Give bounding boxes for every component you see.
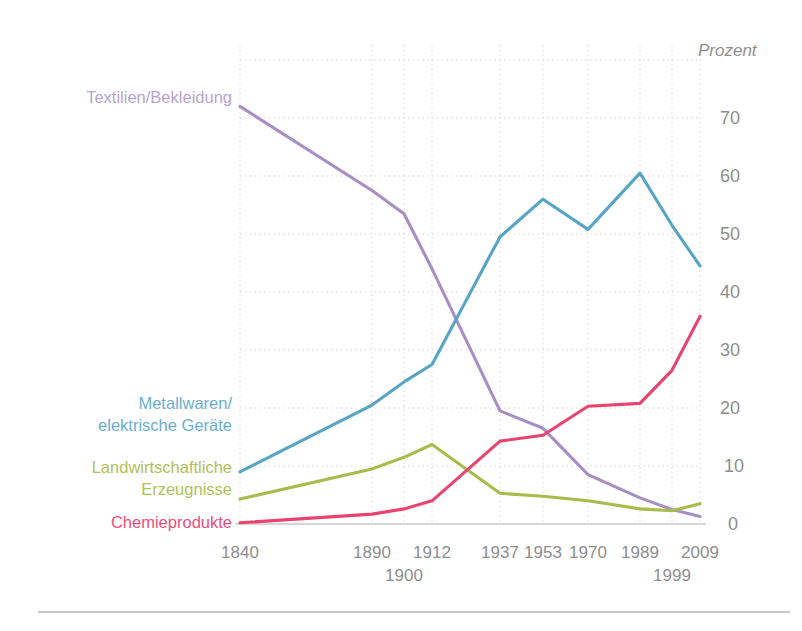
- y-tick-30: 30: [720, 340, 740, 360]
- y-axis-unit-label: Prozent: [698, 41, 758, 60]
- x-tick-2009: 2009: [681, 543, 719, 562]
- x-tick-1999: 1999: [653, 566, 691, 585]
- x-tick-1953: 1953: [524, 543, 562, 562]
- legend-label-metallwaren-line2: elektrische Geräte: [98, 416, 232, 434]
- y-tick-10: 10: [724, 456, 744, 476]
- y-tick-60: 60: [720, 166, 740, 186]
- legend-label-metallwaren-line1: Metallwaren/: [138, 394, 232, 412]
- y-tick-50: 50: [720, 224, 740, 244]
- y-tick-20: 20: [720, 398, 740, 418]
- x-tick-1937: 1937: [481, 543, 519, 562]
- x-tick-1970: 1970: [569, 543, 607, 562]
- legend-label-landwirtschaftliche-line2: Erzeugnisse: [141, 480, 232, 498]
- y-tick-40: 40: [720, 282, 740, 302]
- x-tick-1989: 1989: [621, 543, 659, 562]
- line-chart-figure: Prozent 70 60 50 40 30 20 10 0 1840 1890…: [0, 0, 802, 631]
- x-tick-1890: 1890: [353, 543, 391, 562]
- x-tick-1912: 1912: [413, 543, 451, 562]
- chart-container: Prozent 70 60 50 40 30 20 10 0 1840 1890…: [0, 0, 802, 631]
- x-tick-1840: 1840: [221, 543, 259, 562]
- legend-label-landwirtschaftliche-line1: Landwirtschaftliche: [92, 458, 232, 476]
- y-tick-70: 70: [720, 108, 740, 128]
- x-tick-1900: 1900: [385, 566, 423, 585]
- y-tick-0: 0: [728, 514, 738, 534]
- legend-label-textilien: Textilien/Bekleidung: [86, 88, 232, 106]
- legend-label-chemieprodukte: Chemieprodukte: [111, 513, 232, 531]
